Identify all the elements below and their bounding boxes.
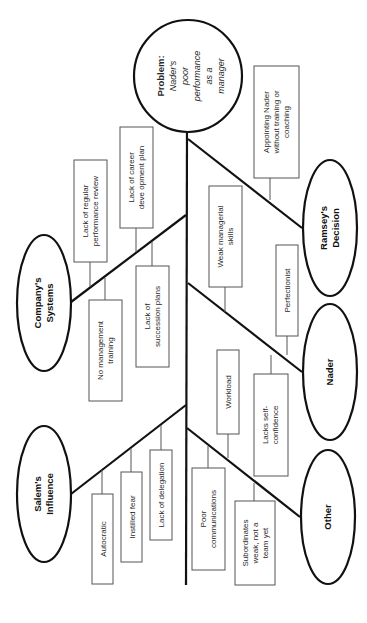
svg-text:team yet: team yet bbox=[261, 527, 270, 558]
problem-line-3: performance bbox=[192, 51, 202, 103]
category-ramseys-decision: Ramsey's Decision bbox=[303, 160, 357, 296]
svg-text:Lack of: Lack of bbox=[143, 303, 152, 330]
cause-box-no-management-training: No management training bbox=[89, 300, 122, 401]
problem-label: Problem: bbox=[155, 55, 166, 96]
cause-box-lacks-self-confidence: Lacks self- confidence bbox=[254, 374, 288, 476]
svg-text:deve opment plan: deve opment plan bbox=[137, 146, 146, 210]
problem-line-4: as a bbox=[204, 67, 214, 84]
cause-box-appointing-nader: Appointing Nader without training or coa… bbox=[254, 66, 299, 178]
svg-text:coaching: coaching bbox=[282, 106, 291, 138]
svg-text:Lack of delegation: Lack of delegation bbox=[157, 463, 166, 528]
svg-text:Influence: Influence bbox=[44, 473, 55, 515]
svg-text:Nader: Nader bbox=[324, 358, 335, 385]
svg-text:Workload: Workload bbox=[224, 375, 233, 409]
svg-text:Poor: Poor bbox=[199, 510, 208, 527]
svg-text:training: training bbox=[106, 337, 115, 363]
svg-text:Systems: Systems bbox=[44, 283, 55, 322]
svg-text:Decision: Decision bbox=[330, 208, 341, 248]
svg-text:performance review: performance review bbox=[91, 176, 100, 246]
svg-text:Other: Other bbox=[322, 504, 333, 530]
cause-box-instilled-fear: Instilled fear bbox=[121, 472, 142, 562]
cause-box-lack-career-plan: Lack of career deve opment plan bbox=[120, 127, 153, 228]
cause-box-autocratic: Autocratic bbox=[92, 494, 113, 584]
svg-text:Company's: Company's bbox=[32, 278, 43, 329]
cause-box-lack-performance-review: Lack of regular performance review bbox=[74, 160, 107, 262]
cause-box-lack-of-delegation: Lack of delegation bbox=[150, 450, 172, 540]
problem-line-5: manager bbox=[216, 57, 226, 94]
svg-text:confidence: confidence bbox=[271, 405, 280, 444]
svg-text:Appointing Nader: Appointing Nader bbox=[262, 91, 271, 153]
svg-text:without training or: without training or bbox=[272, 90, 281, 154]
svg-text:skills: skills bbox=[226, 228, 235, 245]
problem-line-1: Nader's bbox=[168, 60, 178, 91]
svg-text:No management: No management bbox=[96, 320, 105, 380]
svg-text:Lack of regular: Lack of regular bbox=[81, 184, 90, 237]
fishbone-diagram: Problem: Nader's poor performance as a m… bbox=[0, 0, 367, 623]
category-companys-systems: Company's Systems bbox=[17, 235, 71, 371]
svg-text:Weak managerial: Weak managerial bbox=[216, 205, 225, 267]
svg-text:Lacks self-: Lacks self- bbox=[261, 406, 270, 445]
spine-line bbox=[186, 130, 187, 585]
svg-text:weak, not a: weak, not a bbox=[251, 522, 260, 564]
svg-text:Ramsey's: Ramsey's bbox=[318, 206, 329, 250]
category-nader: Nader bbox=[303, 304, 357, 440]
svg-text:Perfectionist: Perfectionist bbox=[283, 268, 292, 313]
svg-text:Salem's: Salem's bbox=[32, 476, 43, 512]
category-salems-influence: Salem's Influence bbox=[17, 426, 71, 562]
problem-line-2: poor bbox=[180, 66, 190, 86]
cause-box-poor-communications: Poor communications bbox=[192, 468, 225, 570]
svg-text:communications: communications bbox=[209, 490, 218, 548]
cause-box-subordinates-weak: Subordinates weak, not a team yet bbox=[235, 501, 275, 585]
svg-text:succession plans: succession plans bbox=[153, 286, 162, 347]
svg-text:Subordinates: Subordinates bbox=[241, 519, 250, 566]
svg-text:Autocratic: Autocratic bbox=[99, 521, 108, 557]
problem-head: Problem: Nader's poor performance as a m… bbox=[134, 20, 242, 132]
svg-text:Lack of career: Lack of career bbox=[127, 152, 136, 203]
cause-box-weak-managerial-skills: Weak managerial skills bbox=[209, 186, 242, 287]
category-other: Other bbox=[301, 450, 355, 584]
cause-box-perfectionist: Perfectionist bbox=[276, 245, 298, 336]
svg-text:Instilled fear: Instilled fear bbox=[128, 495, 137, 538]
cause-box-workload: Workload bbox=[217, 350, 239, 434]
cause-box-lack-succession-plans: Lack of succession plans bbox=[136, 266, 169, 367]
